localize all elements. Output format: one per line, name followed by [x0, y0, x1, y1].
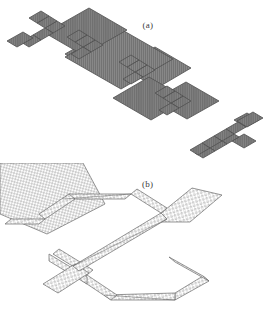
figure-root: (q)	[0, 0, 279, 326]
serpentine-6	[21, 11, 65, 47]
mesh-diagonal-connector	[73, 213, 167, 271]
panel-a-artwork	[0, 0, 279, 163]
mesh-island-left	[160, 188, 222, 222]
panel-label-a: (ɐ)	[142, 22, 153, 32]
panel-label-b: (q)	[142, 181, 153, 191]
figure-panel-b: (q)	[0, 163, 279, 326]
panel-b-artwork	[0, 163, 279, 326]
figure-panel-a: (ɐ)	[0, 0, 279, 163]
